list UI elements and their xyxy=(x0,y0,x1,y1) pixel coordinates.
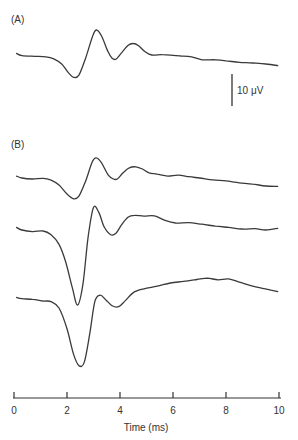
trace-b1 xyxy=(17,158,278,199)
trace-b2 xyxy=(17,206,278,305)
evoked-potential-figure: (A) (B) 10 μV 0246810 Time (ms) xyxy=(0,0,298,440)
traces-group xyxy=(17,30,278,367)
x-tick-label-2: 2 xyxy=(64,405,70,416)
x-tick-label-0: 0 xyxy=(11,405,17,416)
x-tick-label-6: 6 xyxy=(170,405,176,416)
x-axis-ticks: 0246810 xyxy=(11,392,285,416)
panel-b-label: (B) xyxy=(11,139,24,150)
scale-bar-label: 10 μV xyxy=(237,85,264,96)
x-tick-label-4: 4 xyxy=(117,405,123,416)
x-tick-label-10: 10 xyxy=(273,405,285,416)
panel-a-label: (A) xyxy=(11,14,24,25)
x-tick-label-8: 8 xyxy=(223,405,229,416)
trace-a xyxy=(17,30,278,78)
x-axis: 0246810 Time (ms) xyxy=(11,392,285,433)
x-axis-title: Time (ms) xyxy=(124,422,169,433)
trace-b3 xyxy=(17,278,278,366)
